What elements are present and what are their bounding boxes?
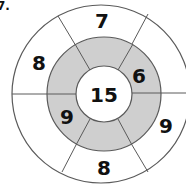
number-wheel-diagram: 7. 7 8 9 8 6 9 15 — [0, 0, 186, 195]
outer-upper-left-number: 8 — [32, 51, 46, 75]
outer-lower-right-number: 9 — [159, 114, 173, 138]
outer-bottom-number: 8 — [97, 156, 111, 180]
problem-label: 7. — [0, 0, 10, 13]
inner-upper-right-number: 6 — [132, 64, 146, 88]
outer-top-number: 7 — [95, 9, 109, 33]
center-number: 15 — [90, 83, 118, 107]
inner-lower-left-number: 9 — [60, 105, 74, 129]
